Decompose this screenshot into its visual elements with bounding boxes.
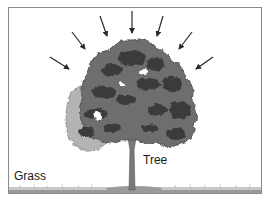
tree-trunk (128, 138, 136, 190)
tree (66, 39, 197, 190)
grass-label: Grass (14, 170, 46, 182)
tree-label: Tree (143, 154, 167, 166)
arrow-icon (72, 32, 85, 49)
arrow-icon (196, 57, 213, 69)
arrow-icon (100, 16, 107, 36)
arrow-icon (157, 16, 163, 36)
arrow-icon (50, 57, 69, 69)
arrow-icon (179, 32, 192, 49)
